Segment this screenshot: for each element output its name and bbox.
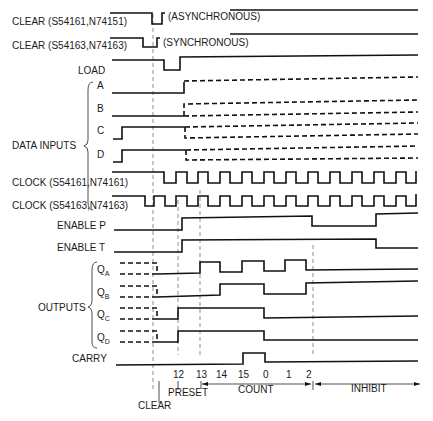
outputs-brace xyxy=(88,262,97,348)
enable-p-trace xyxy=(114,213,418,230)
data-c-dash-high xyxy=(185,123,418,127)
qb-dash-high xyxy=(120,286,157,296)
count-axis: 12 13 14 15 0 1 2 xyxy=(173,369,312,380)
data-c-dash-low xyxy=(185,127,418,138)
data-input-b-label: B xyxy=(97,103,104,114)
clock-161-label: CLOCK (S54161,N74161) xyxy=(12,177,128,188)
data-input-c-label: C xyxy=(97,125,104,136)
clear-async-note: (ASYNCHRONOUS) xyxy=(168,11,260,22)
data-inputs-label: DATA INPUTS xyxy=(12,140,76,151)
phase-markers: PRESET CLEAR COUNT INHIBIT xyxy=(138,381,420,411)
count-0: 0 xyxy=(263,369,269,380)
enable-p-label: ENABLE P xyxy=(57,220,106,231)
data-b-dash-low xyxy=(184,112,418,116)
clock-163-label: CLOCK (S54163,N74163) xyxy=(12,200,128,211)
count-14: 14 xyxy=(216,369,228,380)
data-input-d-label: D xyxy=(97,149,104,160)
qc-label: QC xyxy=(97,309,110,322)
count-12: 12 xyxy=(173,369,185,380)
count-label: COUNT xyxy=(238,384,274,395)
qd-dash-high xyxy=(120,331,157,341)
outputs-label: OUTPUTS xyxy=(38,302,86,313)
qc-dash-high xyxy=(120,308,157,318)
qa-label: QA xyxy=(97,264,110,277)
clear-sync-note: (SYNCHRONOUS) xyxy=(163,37,249,48)
enable-t-label: ENABLE T xyxy=(57,242,105,253)
clock-161-trace xyxy=(112,171,416,183)
count-1: 1 xyxy=(286,369,292,380)
preset-label: PRESET xyxy=(168,387,208,398)
qa-dash-high xyxy=(120,263,157,273)
inhibit-label: INHIBIT xyxy=(351,383,387,394)
clock-163-trace xyxy=(112,194,416,206)
count-arrow-left-icon xyxy=(202,382,208,386)
count-arrow-right-icon xyxy=(305,382,311,386)
qa-trace xyxy=(157,260,418,274)
count-2: 2 xyxy=(306,369,312,380)
data-a-dash xyxy=(184,77,418,81)
clear-sync-label: CLEAR (S54163,N74163) xyxy=(12,40,127,51)
load-trace xyxy=(112,55,418,70)
qd-trace xyxy=(157,331,418,342)
data-a-trace xyxy=(112,82,184,93)
inhibit-arrow-left-icon xyxy=(315,382,321,386)
data-c-trace xyxy=(113,127,185,139)
data-d-dash-high xyxy=(186,146,418,150)
count-13: 13 xyxy=(196,369,208,380)
data-d-dash-low xyxy=(186,150,418,160)
clear-async-label: CLEAR (S54161,N74151) xyxy=(12,16,127,27)
timing-diagram: CLEAR (S54161,N74151) (ASYNCHRONOUS) CLE… xyxy=(0,0,433,421)
data-inputs-brace xyxy=(84,82,93,210)
qd-label: QD xyxy=(97,332,110,345)
data-input-a-label: A xyxy=(97,80,104,91)
carry-trace xyxy=(116,353,418,365)
count-15: 15 xyxy=(238,369,250,380)
qb-trace xyxy=(157,281,418,297)
clear-label: CLEAR xyxy=(138,400,171,411)
load-label: LOAD xyxy=(78,65,105,76)
data-b-dash-high xyxy=(184,100,418,116)
qc-trace xyxy=(157,308,418,319)
inhibit-arrow-right-icon xyxy=(414,382,420,386)
enable-t-trace xyxy=(114,239,418,252)
data-d-trace xyxy=(113,150,186,162)
carry-label: CARRY xyxy=(72,353,107,364)
qb-label: QB xyxy=(97,287,110,300)
